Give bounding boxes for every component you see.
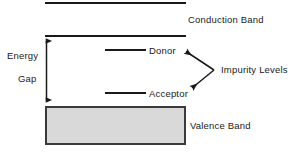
valence-band-box <box>46 107 185 144</box>
impurity-pointer-lower <box>192 70 214 88</box>
gap-label: Gap <box>18 73 37 84</box>
donor-level-label: Donor <box>149 45 176 56</box>
conduction-band-label: Conduction Band <box>188 14 264 25</box>
energy-band-diagram: Conduction Band Impurity Levels Valence … <box>0 0 300 155</box>
impurity-pointer-upper <box>186 52 214 71</box>
energy-label: Energy <box>7 50 38 61</box>
valence-band-label: Valence Band <box>190 120 251 131</box>
acceptor-level-label: Acceptor <box>149 88 188 99</box>
impurity-levels-label: Impurity Levels <box>221 64 288 75</box>
